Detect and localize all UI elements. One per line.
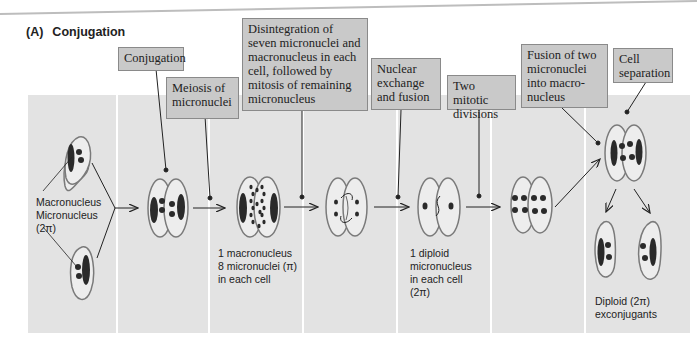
paired-cells-diploid-icon [418, 178, 460, 236]
callout-conjugation: Conjugation [118, 47, 184, 71]
label-line: exconjugants [595, 308, 657, 321]
label-exconjugants: Diploid (2π) exconjugants [595, 295, 657, 321]
callout-disintegration: Disintegration of seven micronuclei and … [242, 18, 368, 111]
label-line: 8 micronuclei (π) [218, 260, 297, 273]
callout-meiosis: Meiosis of micronuclei [166, 77, 239, 119]
label-stage-meiosis: 1 macronucleus 8 micronuclei (π) in each… [218, 247, 297, 286]
label-line: 1 diploid [410, 247, 472, 260]
callout-nuclear-exchange: Nuclear exchange and fusion [371, 58, 441, 110]
callout-text: Disintegration of seven micronuclei and … [248, 22, 360, 106]
callout-text: Two mitotic divisions [453, 79, 498, 121]
callout-text: Fusion of two micronuclei into macro-nuc… [527, 48, 596, 104]
callout-text: Cell separation [619, 52, 670, 80]
paired-cells-fusion-icon [605, 125, 646, 181]
label-stage-diploid: 1 diploid micronucleus in each cell (2π) [410, 247, 472, 299]
label-macronucleus-micronucleus: Macronucleus Micronucleus (2π) [36, 196, 101, 235]
label-line: in each cell [218, 273, 297, 286]
callout-text: Meiosis of micronuclei [172, 81, 232, 109]
callout-fusion: Fusion of two micronuclei into macro-nuc… [521, 44, 608, 108]
callout-text: Conjugation [124, 51, 186, 65]
label-micronucleus: Micronucleus [36, 209, 101, 222]
callout-text: Nuclear exchange and fusion [377, 62, 429, 104]
callout-cell-separation: Cell separation [613, 48, 673, 83]
label-line: micronucleus [410, 260, 472, 273]
label-line: (2π) [410, 286, 472, 299]
label-macronucleus: Macronucleus [36, 196, 101, 209]
cell-icon [61, 126, 90, 191]
paired-cells-meiosis-icon [237, 177, 280, 237]
exconjugant-cell-icon [639, 222, 661, 280]
label-ploidy: (2π) [36, 222, 101, 235]
paired-cells-mitosis-icon [511, 177, 552, 233]
label-line: in each cell [410, 273, 472, 286]
cell-icon [71, 247, 94, 300]
callout-two-mitotic-divisions: Two mitotic divisions [447, 75, 516, 110]
label-line: 1 macronucleus [218, 247, 297, 260]
paired-cells-icon [148, 179, 188, 237]
paired-cells-disintegration-icon [326, 178, 367, 236]
label-line: Diploid (2π) [595, 295, 657, 308]
exconjugant-cell-icon [595, 222, 615, 277]
